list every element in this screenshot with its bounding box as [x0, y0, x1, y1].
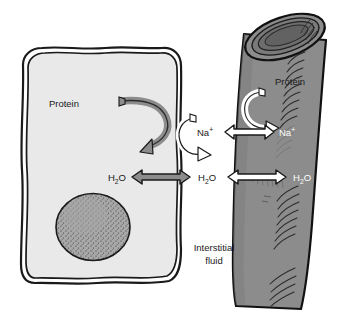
nucleus: [56, 194, 130, 261]
interstitial-h2o-label: H2O: [198, 172, 216, 185]
cell-capillary-exchange-diagram: Protein: [0, 0, 338, 316]
capillary-vessel: Protein Na+ H2O: [233, 5, 331, 309]
svg-text:fluid: fluid: [205, 255, 222, 266]
interstitial-fluid-label: Interstitial fluid: [194, 242, 235, 266]
interstitial-na-label: Na+: [197, 126, 213, 138]
svg-text:H2O: H2O: [198, 172, 216, 185]
cell-protein-label: Protein: [49, 98, 79, 109]
body-cell: Protein: [21, 47, 182, 283]
capillary-protein-label: Protein: [275, 76, 305, 87]
svg-text:Interstitial: Interstitial: [194, 242, 235, 253]
svg-text:Na+: Na+: [197, 126, 213, 138]
